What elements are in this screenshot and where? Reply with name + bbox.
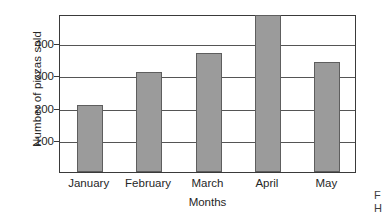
- tick-mark-100: [54, 141, 59, 142]
- x-axis-title: Months: [59, 196, 356, 208]
- x-tick-label-april: April: [255, 177, 278, 189]
- x-tick-label-january: January: [68, 177, 109, 189]
- y-tick-label-200: 200: [26, 103, 54, 115]
- margin-fragment-line-1: F: [374, 189, 388, 202]
- x-axis-tick-labels: JanuaryFebruaryMarchAprilMay: [59, 177, 356, 195]
- y-axis-tick-labels: 100200300400: [26, 0, 54, 223]
- y-axis-tick-marks: [59, 15, 356, 173]
- tick-mark-300: [54, 76, 59, 77]
- x-tick-label-may: May: [315, 177, 337, 189]
- x-tick-label-march: March: [192, 177, 224, 189]
- bar-chart-figure: Number of pizzas sold 100200300400 Janua…: [0, 0, 388, 223]
- y-tick-label-100: 100: [26, 135, 54, 147]
- tick-mark-200: [54, 109, 59, 110]
- x-tick-label-february: February: [125, 177, 171, 189]
- y-tick-label-400: 400: [26, 38, 54, 50]
- margin-fragment-line-2: H: [374, 202, 388, 215]
- y-tick-label-300: 300: [26, 70, 54, 82]
- tick-mark-400: [54, 44, 59, 45]
- page-margin-text-fragment: F H: [374, 189, 388, 215]
